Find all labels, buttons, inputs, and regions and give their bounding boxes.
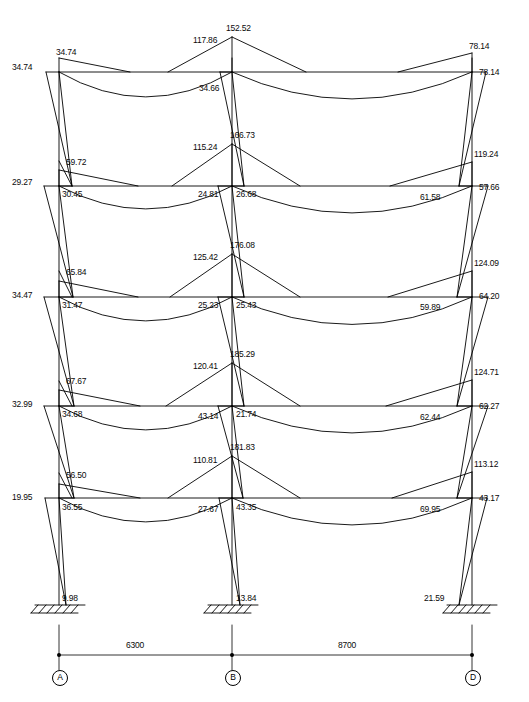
bmd-beam-floor2-BD xyxy=(232,363,472,433)
moment-label-column-D-upper: 124.71 xyxy=(474,368,499,377)
moment-label-joint-B: 181.83 xyxy=(230,443,255,452)
bmd-beam-floor3-BD xyxy=(232,254,472,325)
span-dimension-B-D: 8700 xyxy=(338,641,356,650)
support-fixed-D xyxy=(443,605,497,613)
bmd-beam-floor3-AB xyxy=(59,254,232,321)
moment-label-beam-BD-left-end: 26.68 xyxy=(236,190,256,199)
bending-moment-diagram-sheet: 34.7434.74117.86152.5234.6678.1478.1459.… xyxy=(0,0,529,702)
support-fixed-B xyxy=(204,605,258,613)
frame-diagram-svg xyxy=(0,0,529,702)
moment-label-beam-AB-right-peak: 120.41 xyxy=(193,362,218,371)
moment-label-beam-BD-right-end: 69.95 xyxy=(420,505,440,514)
moment-label-column-D-upper: 113.12 xyxy=(474,460,498,469)
moment-label-beam-BD-left-end: 21.74 xyxy=(236,410,256,419)
moment-label-beam-BD-left-end: 25.43 xyxy=(236,301,256,310)
frame-beam-axes xyxy=(59,72,472,498)
grid-bubble-leaders xyxy=(59,655,472,670)
moment-label-column-A-upper: 56.50 xyxy=(66,471,86,480)
bmd-column-D-storey3 xyxy=(457,297,488,406)
bmd-column-D-storey5 xyxy=(459,72,486,186)
grid-bubble-a: A xyxy=(52,670,68,686)
bmd-beam-floor4-AB xyxy=(59,144,232,209)
bmd-column-D-storey2 xyxy=(457,406,488,498)
moment-label-joint-A-left: 29.27 xyxy=(12,178,32,187)
moment-label-beam-BD-right-end: 62.44 xyxy=(420,413,440,422)
bmd-column-D-storey1 xyxy=(459,498,487,605)
base-moment-label-A: 9.98 xyxy=(62,594,78,603)
moment-label-joint-D-right: 57.66 xyxy=(479,183,499,192)
base-moment-label-D: 21.59 xyxy=(424,594,444,603)
bmd-column-B-storey2 xyxy=(218,406,243,498)
dimension-line xyxy=(59,625,472,655)
moment-label-joint-D-right: 62.27 xyxy=(479,402,499,411)
moment-label-beam-left-top-A: 34.74 xyxy=(56,48,76,57)
bmd-beam-roof-BD xyxy=(232,37,472,99)
moment-label-beam-AB-right-end: 27.67 xyxy=(198,505,218,514)
moment-label-beam-AB-right-end: 25.23 xyxy=(198,301,218,310)
moment-label-beam-AB-right-end: 24.81 xyxy=(198,190,218,199)
bmd-beam-floor4-BD xyxy=(232,144,472,213)
moment-label-joint-A-left: 19.95 xyxy=(12,493,32,502)
moment-label-joint-D-right: 64.20 xyxy=(479,292,499,301)
moment-label-joint-D-right: 43.17 xyxy=(479,494,499,503)
moment-label-joint-B: 185.29 xyxy=(230,350,255,359)
grid-bubble-d: D xyxy=(465,670,481,686)
moment-label-column-top-B: 152.52 xyxy=(226,24,251,33)
moment-label-beam-AB-left-end: 31.47 xyxy=(62,301,82,310)
moment-label-beam-AB-left-end: 34.68 xyxy=(62,410,82,419)
moment-label-joint-B: 166.73 xyxy=(230,131,255,140)
moment-label-column-D-upper: 124.09 xyxy=(474,259,499,268)
bmd-beam-floor1-BD xyxy=(232,456,472,525)
moment-label-beam-AB-right-end: 117.86 xyxy=(193,36,217,45)
moment-label-beam-AB-right-peak: 125.42 xyxy=(193,253,218,262)
moment-label-beam-BD-right-end: 78.14 xyxy=(469,42,489,51)
span-dimension-A-B: 6300 xyxy=(126,641,144,650)
bmd-column-D-storey4 xyxy=(457,186,488,297)
moment-label-column-A-upper: 59.72 xyxy=(66,158,86,167)
moment-label-beam-AB-left-end: 30.45 xyxy=(62,190,82,199)
grid-bubble-b: B xyxy=(225,670,241,686)
moment-label-column-top-D-right: 78.14 xyxy=(479,68,499,77)
moment-label-beam-BD-left-end: 43.35 xyxy=(236,503,256,512)
moment-label-beam-AB-left-end: 36.55 xyxy=(62,503,82,512)
moment-label-column-B-top-below: 34.66 xyxy=(199,84,219,93)
moment-label-beam-AB-right-end: 43.14 xyxy=(198,412,218,421)
moment-label-joint-A-left: 32.99 xyxy=(12,400,32,409)
bmd-column-A-storey1 xyxy=(45,473,72,605)
moment-label-joint-B: 176.08 xyxy=(230,241,255,250)
moment-label-beam-BD-right-end: 61.58 xyxy=(420,193,440,202)
base-moment-label-B: 13.84 xyxy=(236,594,256,603)
moment-label-beam-AB-right-peak: 110.81 xyxy=(193,456,217,465)
moment-label-column-D-upper: 119.24 xyxy=(474,150,498,159)
moment-label-beam-AB-right-peak: 115.24 xyxy=(193,143,217,152)
moment-label-column-A-upper: 67.67 xyxy=(66,377,86,386)
bmd-column-B-storey1 xyxy=(219,498,240,605)
moment-label-beam-BD-right-end: 59.89 xyxy=(420,303,440,312)
moment-label-column-A-upper: 65.84 xyxy=(66,268,86,277)
moment-label-column-top-A-left: 34.74 xyxy=(12,63,32,72)
frame-column-axes xyxy=(59,58,472,605)
support-fixed-A xyxy=(31,605,85,613)
moment-label-joint-A-left: 34.47 xyxy=(12,291,32,300)
